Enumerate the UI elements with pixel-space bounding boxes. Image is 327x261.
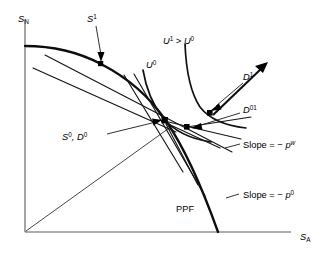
- diagram-canvas: SN SA S1 U1 > U0 U0 D1 D01 S0, D0: [0, 0, 327, 261]
- y-axis-label: SN: [18, 14, 29, 25]
- leader-d1: [216, 83, 243, 106]
- income-expansion-ray: [26, 126, 172, 231]
- leader-s0d0: [107, 122, 156, 134]
- economics-diagram-figure: SN SA S1 U1 > U0 U0 D1 D01 S0, D0: [0, 0, 327, 261]
- label-slope-pw: Slope = − pw: [243, 139, 296, 150]
- point-d1-marker: [207, 110, 213, 116]
- label-slope-p0: Slope = − p0: [243, 189, 295, 200]
- label-ppf: PPF: [176, 204, 194, 214]
- leader-s1: [96, 26, 101, 55]
- label-u0: U0: [146, 59, 157, 70]
- leader-s1-arrowhead: [98, 52, 105, 62]
- point-d01-marker: [184, 124, 190, 130]
- label-d1: D1: [243, 71, 254, 82]
- point-s0d0-marker: [162, 117, 168, 123]
- trade-vector-arrowhead: [255, 62, 268, 73]
- point-s1-marker: [98, 61, 103, 66]
- x-axis-label: SA: [300, 232, 311, 243]
- leader-slope-p0: [226, 194, 239, 198]
- u1-indifference-curve: [185, 44, 246, 128]
- label-d01: D01: [243, 104, 257, 115]
- label-u1-gt-u0: U1 > U0: [163, 35, 195, 46]
- label-s0-d0: S0, D0: [62, 131, 88, 142]
- label-s1: S1: [87, 13, 97, 24]
- leader-slope-pw: [225, 144, 240, 148]
